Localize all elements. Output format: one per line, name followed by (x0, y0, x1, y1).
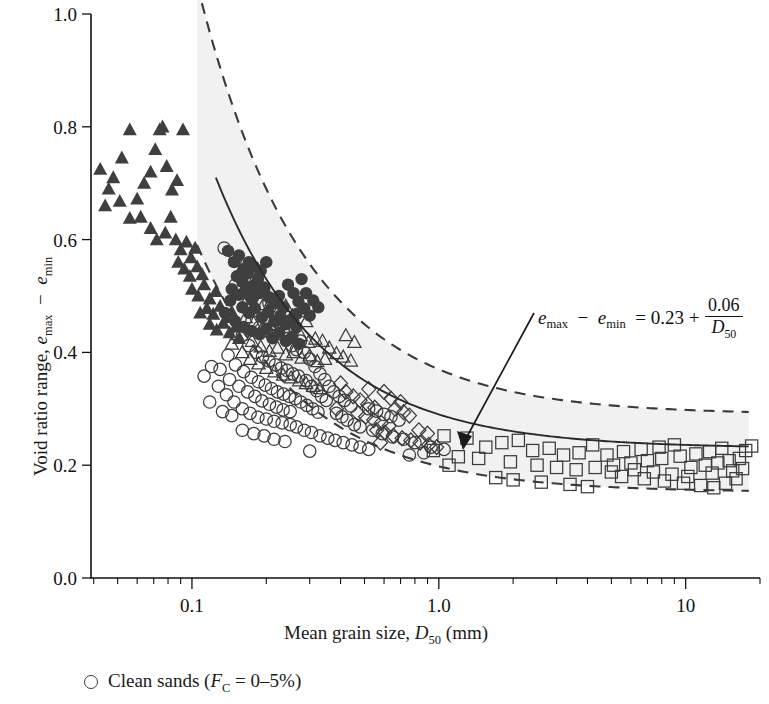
data-point-open-circle (304, 445, 316, 457)
data-point-filled-triangle (156, 120, 170, 133)
data-point-filled-triangle (115, 151, 129, 164)
data-point-open-circle (268, 415, 280, 427)
data-point-open-circle (256, 395, 268, 407)
data-point-filled-triangle (144, 221, 158, 234)
data-point-filled-triangle (123, 211, 137, 224)
data-point-filled-circle (222, 245, 234, 257)
x-tick-label: 0.1 (180, 595, 204, 616)
legend-label-prefix: Clean sands ( (108, 670, 210, 691)
legend-label-suffix: = 0–5%) (230, 670, 301, 691)
data-point-filled-triangle (93, 162, 107, 175)
data-point-filled-circle (312, 301, 324, 313)
data-point-filled-triangle (137, 176, 151, 189)
data-point-filled-circle (295, 273, 307, 285)
data-point-open-circle (233, 380, 245, 392)
data-point-filled-triangle (158, 226, 172, 239)
data-point-filled-triangle (98, 199, 112, 212)
data-point-open-circle (305, 426, 317, 438)
data-point-open-circle (220, 389, 232, 401)
data-point-open-circle (363, 443, 375, 455)
chart-container: 0.00.20.40.60.81.00.11.010 Void ratio ra… (0, 0, 769, 704)
y-tick-label: 0.6 (53, 230, 77, 251)
data-point-filled-triangle (134, 210, 148, 223)
data-point-open-circle (276, 417, 288, 429)
data-point-open-circle (260, 413, 272, 425)
data-point-open-circle (284, 405, 296, 417)
data-point-open-circle (337, 436, 349, 448)
equation-numerator: 0.06 (705, 295, 743, 316)
data-point-open-circle (236, 424, 248, 436)
data-point-filled-triangle (113, 194, 127, 207)
y-axis-title: Void ratio range, emax − emin (30, 257, 56, 476)
equation-constant: 0.23 (651, 307, 684, 328)
data-point-open-circle (214, 363, 226, 375)
data-point-filled-triangle (148, 142, 162, 155)
data-point-open-circle (249, 390, 261, 402)
data-point-filled-triangle (102, 182, 116, 195)
data-point-filled-circle (260, 256, 272, 268)
data-point-filled-triangle (144, 165, 158, 178)
data-point-filled-triangle (123, 122, 137, 135)
data-point-open-circle (314, 430, 326, 442)
y-tick-label: 1.0 (53, 4, 77, 25)
legend-item-clean-sands: Clean sands (FC = 0–5%) (84, 670, 301, 696)
equation-annotation: emax − emin = 0.23 + 0.06 D50 (538, 296, 744, 343)
data-point-filled-triangle (176, 122, 190, 135)
data-point-open-circle (279, 435, 291, 447)
data-point-filled-triangle (106, 170, 120, 183)
data-point-open-circle (228, 396, 240, 408)
legend-label-symbol: F (210, 670, 222, 691)
x-axis-title: Mean grain size, D50 (mm) (284, 622, 488, 648)
data-point-filled-triangle (160, 159, 174, 172)
data-point-open-circle (252, 411, 264, 423)
data-point-filled-circle (224, 294, 236, 306)
data-point-filled-triangle (179, 235, 193, 248)
y-tick-label: 0.2 (53, 455, 77, 476)
y-tick-label: 0.8 (53, 117, 77, 138)
data-point-open-circle (329, 434, 341, 446)
data-point-filled-triangle (130, 192, 144, 205)
data-point-filled-circle (293, 338, 305, 350)
data-point-open-circle (198, 370, 210, 382)
data-point-filled-triangle (164, 210, 178, 223)
scatter-plot-svg: 0.00.20.40.60.81.00.11.010 (0, 0, 769, 704)
y-tick-label: 0.4 (53, 342, 77, 363)
y-tick-label: 0.0 (53, 568, 77, 589)
data-point-open-circle (298, 424, 310, 436)
open-circle-icon (84, 675, 98, 689)
x-tick-label: 1.0 (427, 595, 451, 616)
data-point-open-circle (241, 386, 253, 398)
data-point-open-circle (322, 432, 334, 444)
data-point-open-circle (263, 398, 275, 410)
data-point-filled-circle (219, 307, 231, 319)
data-point-open-circle (229, 359, 241, 371)
data-point-open-circle (212, 380, 224, 392)
data-point-open-circle (203, 396, 215, 408)
x-tick-label: 10 (676, 595, 695, 616)
data-point-open-circle (354, 441, 366, 453)
data-point-open-circle (346, 439, 358, 451)
data-point-filled-triangle (170, 173, 184, 186)
